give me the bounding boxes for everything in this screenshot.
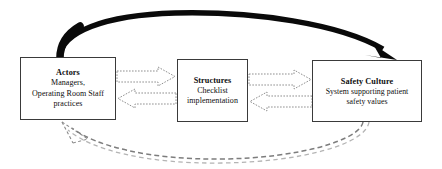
node-title-structures: Structures: [194, 75, 232, 86]
node-title-safety-culture: Safety Culture: [341, 76, 393, 87]
node-desc-safety-culture-line-2: safety values: [344, 97, 389, 107]
node-box-structures[interactable]: Structures Checklist implementation: [177, 59, 248, 122]
node-desc-actors-line-2: Operating Room Staff: [30, 89, 106, 100]
connector-safety-culture-to-structures: [250, 92, 312, 111]
node-box-actors[interactable]: Actors Managers, Operating Room Staff pr…: [20, 57, 116, 120]
connector-actors-to-structures: [117, 67, 175, 86]
node-desc-actors-line-1: Managers,: [49, 78, 87, 89]
node-desc-structures-line-2: implementation: [185, 96, 240, 107]
connector-actors-to-safety-culture-arc: [60, 13, 397, 60]
connector-structures-to-safety-culture: [249, 70, 311, 89]
connector-safety-culture-to-actors-arc: [62, 122, 369, 163]
connector-structures-to-actors: [118, 89, 176, 108]
node-box-safety-culture[interactable]: Safety Culture System supporting patient…: [312, 60, 422, 122]
node-title-actors: Actors: [56, 67, 80, 78]
diagram-canvas: Actors Managers, Operating Room Staff pr…: [0, 0, 442, 169]
node-desc-structures-line-1: Checklist: [195, 86, 230, 97]
node-desc-safety-culture-line-1: System supporting patient: [324, 87, 411, 97]
node-desc-actors-line-3: practices: [52, 99, 85, 110]
